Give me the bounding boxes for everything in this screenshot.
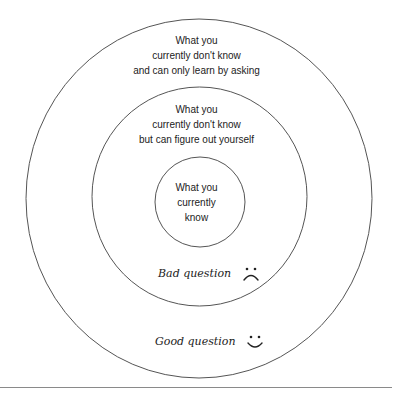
outer-ring-line-3: and can only learn by asking bbox=[0, 63, 393, 78]
inner-circle-line-1: What you bbox=[0, 180, 393, 195]
inner-circle-label: What you currently know bbox=[0, 180, 393, 225]
frown-face-icon bbox=[241, 266, 261, 282]
inner-circle-line-2: currently bbox=[0, 195, 393, 210]
outer-ring-line-1: What you bbox=[0, 33, 393, 48]
bottom-divider bbox=[0, 387, 392, 388]
middle-ring-line-2: currently don't know bbox=[0, 117, 393, 132]
inner-circle-line-3: know bbox=[0, 210, 393, 225]
good-question-label: Good question bbox=[155, 335, 236, 348]
middle-ring-line-1: What you bbox=[0, 102, 393, 117]
knowledge-circles-diagram: What you currently don't know and can on… bbox=[0, 0, 393, 398]
middle-ring-line-3: but can figure out yourself bbox=[0, 132, 393, 147]
outer-ring-line-2: currently don't know bbox=[0, 48, 393, 63]
bad-question-annotation: Bad question bbox=[158, 266, 261, 282]
good-question-annotation: Good question bbox=[155, 334, 265, 350]
smile-face-icon bbox=[245, 334, 265, 350]
bad-question-label: Bad question bbox=[158, 267, 231, 280]
outer-ring-label: What you currently don't know and can on… bbox=[0, 33, 393, 78]
middle-ring-label: What you currently don't know but can fi… bbox=[0, 102, 393, 147]
